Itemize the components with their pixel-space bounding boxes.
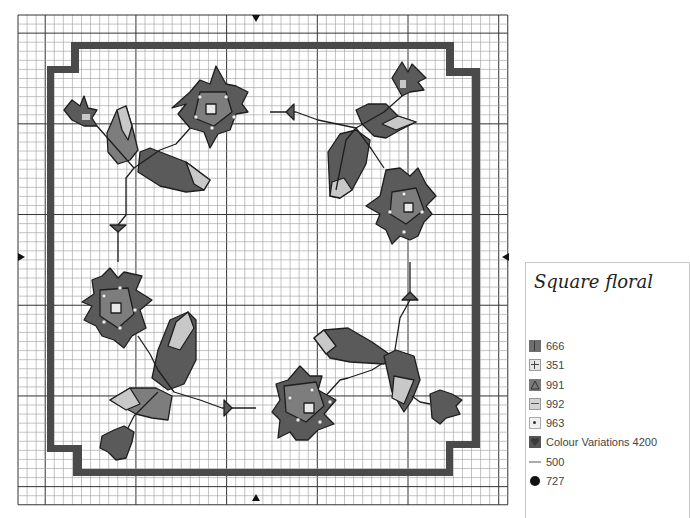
legend-item-963: 963 xyxy=(529,415,564,431)
legend-title: Square floral xyxy=(534,271,653,292)
stepped-frame-border xyxy=(47,42,480,476)
legend-panel: Square floral 666 351 991 992 963 Colour… xyxy=(525,262,690,518)
center-arrow-up-icon xyxy=(252,494,260,501)
motif-bottom-left xyxy=(82,268,256,460)
dash-symbol-icon xyxy=(529,398,541,410)
motif-bottom-right xyxy=(272,262,462,440)
legend-item-351: 351 xyxy=(529,357,564,373)
stitch-grid xyxy=(18,15,508,505)
vertical-bar-symbol-icon xyxy=(529,340,541,352)
legend-item-666: 666 xyxy=(529,338,564,354)
cross-stitch-chart xyxy=(0,0,520,518)
dot-symbol-icon xyxy=(529,417,541,429)
backstitch-line-icon xyxy=(529,461,541,463)
center-arrow-down-icon xyxy=(252,15,260,22)
legend-item-992: 992 xyxy=(529,396,564,412)
heart-symbol-icon xyxy=(529,436,541,448)
legend-item-991: 991 xyxy=(529,377,564,393)
french-knot-icon xyxy=(530,476,540,486)
legend-item-727: 727 xyxy=(529,473,564,489)
legend-item-500: 500 xyxy=(529,454,564,470)
triangle-symbol-icon xyxy=(529,379,541,391)
legend-item-4200: Colour Variations 4200 xyxy=(529,434,657,450)
plus-symbol-icon xyxy=(529,359,541,371)
motif-top-right xyxy=(270,62,436,244)
